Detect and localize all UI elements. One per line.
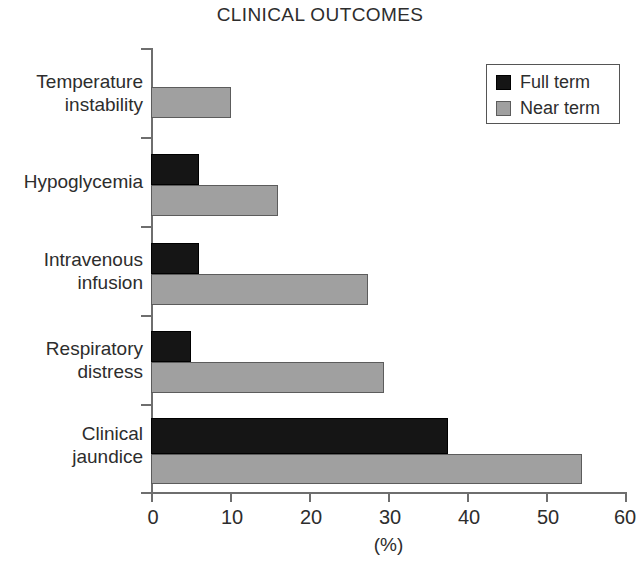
category-label-line: instability: [0, 93, 143, 116]
category-label-hypoglycemia: Hypoglycemia: [0, 170, 143, 193]
category-label-intravenous-infusion: Intravenous infusion: [0, 248, 143, 294]
category-label-line: Hypoglycemia: [0, 170, 143, 193]
x-axis-tick-label: 40: [439, 506, 499, 529]
x-axis-tick: [230, 492, 232, 502]
x-axis-title: (%): [151, 534, 626, 556]
category-label-line: Intravenous: [0, 248, 143, 271]
bar-full-term-intravenous-infusion: [151, 243, 199, 274]
bar-full-term-clinical-jaundice: [151, 418, 448, 454]
black-square-icon: [496, 75, 511, 90]
legend-item-full-term: Full term: [496, 70, 590, 94]
clinical-outcomes-bar-chart: CLINICAL OUTCOMES 0 10 20 30 40 50 60 (%…: [0, 0, 640, 562]
y-axis-tick: [141, 226, 152, 228]
category-label-respiratory-distress: Respiratory distress: [0, 337, 143, 383]
x-axis-tick: [388, 492, 390, 502]
legend-item-label: Full term: [520, 72, 590, 93]
chart-title: CLINICAL OUTCOMES: [0, 4, 640, 26]
bar-full-term-hypoglycemia: [151, 154, 199, 185]
x-axis-tick: [546, 492, 548, 502]
x-axis-tick-label: 20: [281, 506, 341, 529]
x-axis-tick-label: 50: [518, 506, 578, 529]
category-label-line: Respiratory: [0, 337, 143, 360]
y-axis-tick: [141, 315, 152, 317]
bar-full-term-respiratory-distress: [151, 331, 191, 362]
category-label-line: jaundice: [0, 445, 143, 468]
x-axis-tick: [309, 492, 311, 502]
category-label-line: infusion: [0, 271, 143, 294]
category-label-line: Clinical: [0, 422, 143, 445]
x-axis-tick-label: 10: [202, 506, 262, 529]
category-label-line: Temperature: [0, 70, 143, 93]
x-axis-tick: [625, 492, 627, 502]
x-axis-tick-label: 30: [360, 506, 420, 529]
gray-square-icon: [496, 101, 511, 116]
category-label-temperature-instability: Temperature instability: [0, 70, 143, 116]
legend-item-label: Near term: [520, 98, 600, 119]
y-axis-tick: [141, 137, 152, 139]
category-label-line: distress: [0, 360, 143, 383]
bar-near-term-intravenous-infusion: [151, 274, 368, 305]
bar-near-term-temperature-instability: [151, 87, 231, 118]
x-axis-tick: [151, 492, 153, 502]
x-axis-tick: [467, 492, 469, 502]
x-axis-tick-label: 60: [595, 506, 640, 529]
y-axis-tick: [141, 404, 152, 406]
legend: Full term Near term: [486, 64, 620, 124]
bar-near-term-hypoglycemia: [151, 185, 278, 216]
bar-near-term-clinical-jaundice: [151, 454, 582, 484]
category-label-clinical-jaundice: Clinical jaundice: [0, 422, 143, 468]
x-axis-tick-label: 0: [123, 506, 183, 529]
bar-near-term-respiratory-distress: [151, 362, 384, 393]
legend-item-near-term: Near term: [496, 96, 600, 120]
y-axis-tick: [141, 48, 152, 50]
